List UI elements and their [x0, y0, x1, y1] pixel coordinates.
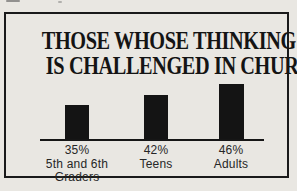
chart-frame: THOSE WHOSE THINKING IS CHALLENGED IN CH… [4, 12, 289, 178]
category-label-line2: Graders [22, 171, 132, 185]
category-label-group-adults: 46% Adults [176, 144, 286, 171]
scan-artifact-dot [58, 1, 62, 3]
x-axis-line [40, 139, 264, 141]
bar-adults [219, 84, 244, 139]
category-label-line1: Adults [176, 158, 286, 172]
plot-area [40, 74, 264, 139]
bar-teens [144, 95, 168, 139]
scan-artifact-mark [6, 0, 20, 2]
bar-5th-6th-graders [65, 105, 89, 139]
value-label: 46% [176, 144, 286, 158]
page-background: { "title": { "line1": "THOSE WHOSE THINK… [0, 0, 297, 191]
